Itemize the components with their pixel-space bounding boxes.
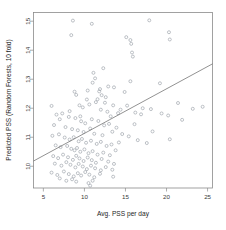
y-tick-label: 13 [24,75,31,82]
x-tick-label: 20 [163,193,170,200]
y-tick-label: 12 [24,104,31,111]
x-tick-label: 5 [42,193,46,200]
y-tick-label: 11 [24,133,31,140]
chart-canvas: 510152025 101112131415 Avg. PSS per day … [0,0,226,230]
y-axis-title: Predicted PSS (Random Forests, 10 fold) [5,39,13,160]
x-tick-label: 10 [81,193,88,200]
scatter-plot-figure: 510152025 101112131415 Avg. PSS per day … [0,0,226,230]
x-axis-title: Avg. PSS per day [97,210,150,218]
x-tick-label: 25 [204,193,211,200]
y-tick-label: 10 [24,162,31,169]
y-tick-label: 14 [24,46,31,53]
y-tick-label: 15 [24,17,31,24]
x-tick-label: 15 [122,193,129,200]
